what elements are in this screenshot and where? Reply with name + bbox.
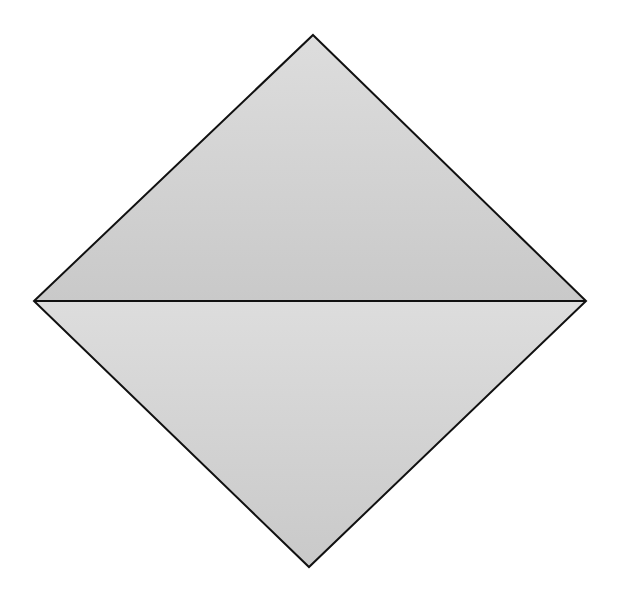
upper-triangle (34, 35, 586, 301)
lower-triangle (34, 301, 586, 567)
rhombus-diagram (0, 0, 624, 589)
